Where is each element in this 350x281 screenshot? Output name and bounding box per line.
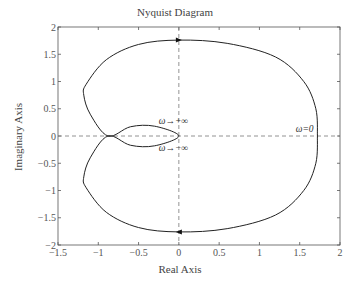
y-tick-label: −2	[45, 240, 56, 251]
y-tick-label: 2	[51, 22, 56, 33]
nyquist-plot: −1.5−1−0.500.511.52−2−1.5−1−0.500.511.52…	[0, 0, 350, 281]
y-tick-label: −0.5	[38, 158, 56, 169]
x-tick-label: 1.5	[293, 247, 306, 258]
x-tick-label: 2	[338, 247, 343, 258]
y-tick-label: 0	[51, 131, 56, 142]
x-tick-label: −1	[93, 247, 104, 258]
y-tick-label: 0.5	[44, 103, 57, 114]
x-tick-label: 0.5	[213, 247, 226, 258]
x-axis-label: Real Axis	[150, 263, 210, 275]
omega-annotation: ω→+∞	[159, 116, 189, 126]
y-tick-label: −1	[45, 185, 56, 196]
x-tick-label: 0	[176, 247, 181, 258]
y-tick-label: 1	[51, 76, 56, 87]
omega-annotation: ω=0	[296, 124, 314, 134]
x-tick-label: 1	[257, 247, 262, 258]
y-tick-label: 1.5	[44, 49, 57, 60]
x-tick-label: −0.5	[130, 247, 148, 258]
omega-annotation: ω→−∞	[159, 143, 189, 153]
y-axis-label: Imaginary Axis	[12, 87, 24, 187]
y-tick-label: −1.5	[38, 212, 56, 223]
